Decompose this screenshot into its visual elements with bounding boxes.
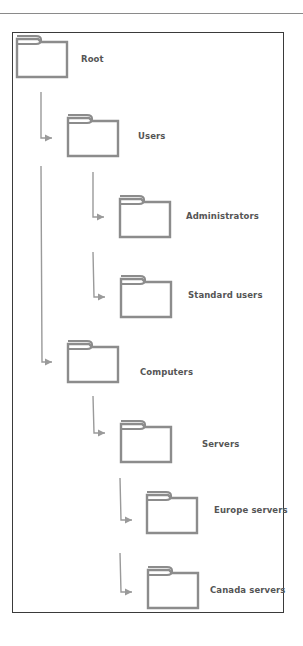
folder-icon-europe-servers <box>147 492 197 533</box>
folder-icon-users <box>68 115 118 156</box>
node-label-europe-servers: Europe servers <box>214 505 288 515</box>
connector-computers-servers <box>93 396 105 433</box>
node-label-users: Users <box>138 131 165 141</box>
node-label-computers: Computers <box>140 367 193 377</box>
folder-icon-computers <box>68 341 118 382</box>
folder-icon-administrators <box>120 196 170 237</box>
folder-icon-servers <box>121 421 171 462</box>
connector-users-standard <box>93 252 105 297</box>
connector-root-computers <box>41 166 52 362</box>
folder-tree <box>0 0 303 646</box>
connector-users-administrators <box>93 172 104 217</box>
folder-icon-root <box>17 36 67 77</box>
node-label-root: Root <box>81 54 104 64</box>
node-label-standard-users: Standard users <box>188 290 263 300</box>
connector-root-users <box>41 92 52 138</box>
connector-servers-canada <box>120 553 132 592</box>
connector-servers-europe <box>120 478 132 520</box>
node-label-canada-servers: Canada servers <box>210 585 286 595</box>
node-label-administrators: Administrators <box>186 211 259 221</box>
folder-icon-canada-servers <box>148 567 198 608</box>
folder-icon-standard-users <box>121 276 171 317</box>
node-label-servers: Servers <box>202 439 239 449</box>
